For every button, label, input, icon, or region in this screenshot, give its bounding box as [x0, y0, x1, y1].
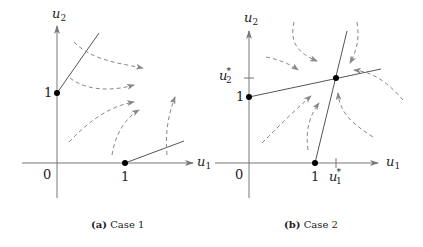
y-axis-label: u2: [52, 6, 66, 23]
flow-arrows: [262, 22, 403, 150]
caption-a: (a) Case 1: [91, 219, 144, 230]
diagram-canvas: u2 u1 0 1 1 (a) Case 1 u2 u1 0 1 1: [0, 0, 423, 247]
x-axis-label: u1: [197, 154, 211, 171]
flow-arrows: [69, 42, 175, 155]
nullcline-u2: [57, 33, 99, 93]
nullcline-u1: [125, 141, 184, 163]
panel-a: u2 u1 0 1 1 (a) Case 1: [22, 6, 211, 230]
nullcline-u1: [315, 31, 347, 163]
u1-star-label: u*1: [329, 167, 342, 186]
x-tick-label: 1: [311, 169, 319, 184]
point-0-1: [246, 94, 252, 100]
origin-label: 0: [43, 167, 51, 182]
nullcline-u2: [249, 69, 381, 97]
caption-b: (b) Case 2: [284, 219, 338, 230]
x-axis-label: u1: [386, 154, 400, 171]
point-1-0: [122, 160, 128, 166]
u2-star-label: u*2: [219, 66, 232, 85]
panel-b: u2 u1 0 1 1 u*2 u*1 (b) Case 2: [215, 10, 403, 230]
point-0-1: [54, 90, 60, 96]
y-tick-label: 1: [236, 89, 244, 104]
equilibrium-point: [333, 75, 339, 81]
point-1-0: [312, 160, 318, 166]
x-tick-label: 1: [121, 169, 129, 184]
origin-label: 0: [235, 167, 243, 182]
y-tick-label: 1: [44, 85, 52, 100]
y-axis-label: u2: [244, 10, 258, 27]
